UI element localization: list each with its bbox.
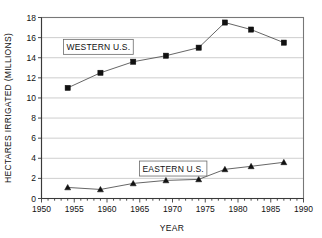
data-point-marker <box>98 70 103 75</box>
data-point-marker <box>65 85 70 90</box>
y-tick-label: 10 <box>27 93 37 103</box>
y-tick-label: 4 <box>31 153 36 163</box>
x-tick-label: 1955 <box>65 204 84 214</box>
y-tick-label: 16 <box>27 33 37 43</box>
chart-figure: 195019551960196519701975198019851990 024… <box>0 0 322 238</box>
annotation-western-u-s: WESTERN U.S. <box>63 39 133 54</box>
x-tick-label: 1960 <box>98 204 117 214</box>
x-axis-ticks: 195019551960196519701975198019851990 <box>32 199 313 214</box>
data-point-marker <box>163 53 168 58</box>
y-axis-title: HECTARES IRRIGATED (MILLIONS) <box>3 33 13 183</box>
x-tick-label: 1980 <box>229 204 248 214</box>
x-tick-label: 1975 <box>196 204 215 214</box>
annotation-eastern-u-s: EASTERN U.S. <box>139 161 206 176</box>
y-tick-label: 18 <box>27 13 37 23</box>
y-tick-label: 0 <box>31 194 36 204</box>
irrigated-hectares-line-chart: 195019551960196519701975198019851990 024… <box>0 0 322 238</box>
annotation-label: EASTERN U.S. <box>142 164 203 174</box>
y-tick-label: 6 <box>31 133 36 143</box>
y-tick-label: 2 <box>31 173 36 183</box>
x-tick-label: 1970 <box>163 204 182 214</box>
y-tick-label: 12 <box>27 73 37 83</box>
chart-background <box>0 0 322 238</box>
annotation-label: WESTERN U.S. <box>66 42 130 52</box>
x-tick-label: 1950 <box>32 204 51 214</box>
x-tick-label: 1965 <box>130 204 149 214</box>
y-tick-label: 14 <box>27 53 37 63</box>
data-point-marker <box>249 27 254 32</box>
x-tick-label: 1990 <box>294 204 313 214</box>
data-point-marker <box>281 40 286 45</box>
data-point-marker <box>196 45 201 50</box>
data-point-marker <box>222 20 227 25</box>
y-tick-label: 8 <box>31 113 36 123</box>
data-point-marker <box>131 59 136 64</box>
x-tick-label: 1985 <box>261 204 280 214</box>
x-axis-title: YEAR <box>160 223 184 233</box>
